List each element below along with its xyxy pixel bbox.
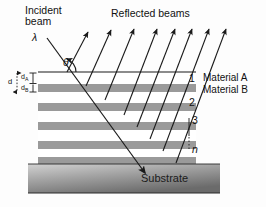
incident-beam-label: Incident beam: [25, 5, 62, 28]
bilayer-number-n: n: [192, 144, 198, 155]
material-b-bar: [38, 84, 196, 92]
layer-b-thickness-sub: B: [25, 87, 28, 93]
diagram-canvas: [0, 0, 266, 207]
material-b-bar: [38, 157, 196, 164]
reflected-beam-arrow: [67, 32, 88, 72]
substrate-fill: [28, 164, 220, 193]
bilayer-number-1: 1: [189, 73, 195, 84]
substrate-block: [28, 164, 220, 193]
reflected-beams-label: Reflected beams: [111, 8, 190, 19]
material-b-label: Material B: [203, 85, 248, 96]
bilayer-number-3: 3: [192, 115, 198, 126]
layer-b-thickness-label: dB: [21, 84, 28, 94]
multilayer-bragg-diagram: Incident beam Reflected beams λ θ d dA d…: [0, 0, 266, 207]
material-b-bar: [38, 103, 196, 111]
layer-a-thickness-sub: A: [25, 76, 28, 82]
material-b-bar: [38, 141, 196, 149]
layer-a-thickness-label: dA: [21, 73, 28, 83]
material-a-label: Material A: [203, 73, 247, 84]
wavelength-label: λ: [32, 32, 37, 43]
multilayer-stack: [38, 72, 196, 164]
bilayer-number-2: 2: [189, 97, 195, 108]
period-thickness-label: d: [8, 78, 12, 86]
substrate-label: Substrate: [141, 173, 188, 185]
theta-angle-label: θ: [63, 57, 69, 68]
